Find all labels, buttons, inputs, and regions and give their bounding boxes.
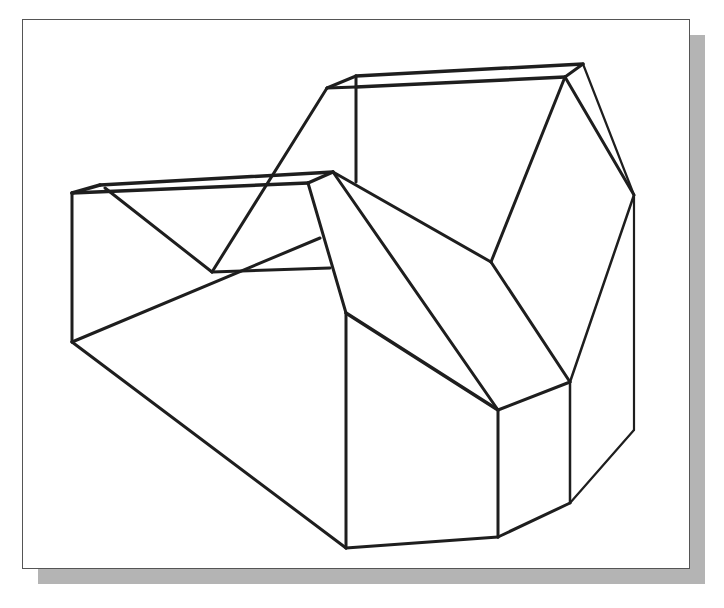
model-edge xyxy=(346,313,498,410)
model-edge xyxy=(327,87,356,88)
model-edge xyxy=(583,64,634,195)
model-edge xyxy=(346,537,498,548)
model-edge xyxy=(491,262,570,382)
model-edge xyxy=(356,64,583,76)
model-edge xyxy=(308,183,346,313)
model-edge xyxy=(498,503,570,537)
model-edge xyxy=(212,88,327,272)
model-edge xyxy=(105,188,212,272)
wireframe-model xyxy=(0,0,724,608)
model-edge xyxy=(333,172,491,262)
model-edge xyxy=(72,342,346,548)
model-edge xyxy=(333,172,498,410)
model-edge xyxy=(356,77,565,87)
model-edge xyxy=(570,430,634,503)
model-edge xyxy=(72,238,320,342)
model-edge xyxy=(565,77,634,195)
model-edge xyxy=(491,77,565,262)
model-edge xyxy=(212,268,330,272)
model-edge xyxy=(498,382,570,410)
model-edge xyxy=(570,195,634,382)
